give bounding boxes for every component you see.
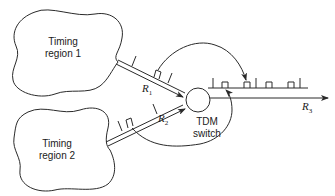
r2-label: R2 <box>158 112 168 127</box>
region-2-line2: region 2 <box>32 150 82 162</box>
r2-letter: R <box>158 112 165 124</box>
r1-letter: R <box>142 82 149 94</box>
switch-line1: TDM <box>185 116 229 128</box>
r1-label: R1 <box>142 82 152 97</box>
link-r2-line-b <box>108 109 185 146</box>
r3-letter: R <box>302 100 309 112</box>
tdm-switch-label: TDM switch <box>185 116 229 140</box>
r2-sub: 2 <box>165 119 169 127</box>
tdm-switch-circle <box>186 88 210 112</box>
region-1-line1: Timing <box>38 36 88 48</box>
timing-region-2-label: Timing region 2 <box>32 138 82 162</box>
r3-label: R3 <box>302 100 312 115</box>
region-2-line1: Timing <box>32 138 82 150</box>
region-1-line2: region 1 <box>38 48 88 60</box>
switch-line2: switch <box>185 128 229 140</box>
r3-sub: 3 <box>309 107 313 115</box>
tdm-diagram <box>0 0 335 196</box>
timing-region-1-label: Timing region 1 <box>38 36 88 60</box>
link-r2-line-a <box>106 105 183 142</box>
r1-sub: 1 <box>149 89 153 97</box>
